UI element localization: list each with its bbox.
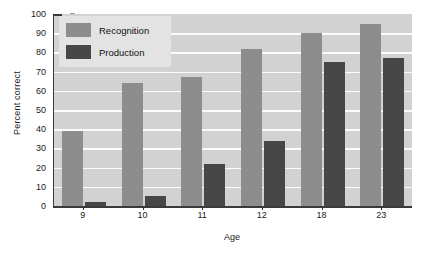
y-tick-label: 30	[22, 143, 46, 153]
y-tick-label: 100	[22, 9, 46, 19]
y-tick-label: 60	[22, 86, 46, 96]
bar-production-age-12	[264, 141, 285, 206]
bar-production-age-10	[145, 196, 166, 206]
y-tick-label: 70	[22, 67, 46, 77]
bar-chart-figure: Percent correct 0102030405060708090100 9…	[0, 0, 421, 255]
y-tick-label: 50	[22, 105, 46, 115]
chart-legend: Recognition Production	[59, 16, 171, 67]
y-tick-label: 20	[22, 163, 46, 173]
x-tick-label: 10	[123, 210, 163, 220]
bar-group	[181, 14, 225, 206]
bar-recognition-age-12	[241, 49, 262, 206]
bar-production-age-11	[204, 164, 225, 206]
legend-item-recognition: Recognition	[59, 19, 171, 41]
bar-recognition-age-11	[181, 77, 202, 206]
y-axis-tick-labels: 0102030405060708090100	[22, 14, 46, 206]
bar-group	[301, 14, 345, 206]
x-tick-mark	[262, 206, 263, 210]
legend-label-production: Production	[99, 47, 144, 58]
x-tick-label: 11	[182, 210, 222, 220]
x-tick-mark	[143, 206, 144, 210]
x-tick-label: 18	[302, 210, 342, 220]
bar-group	[241, 14, 285, 206]
bar-recognition-age-9	[62, 131, 83, 206]
bar-recognition-age-18	[301, 33, 322, 206]
y-tick-label: 0	[22, 201, 46, 211]
x-tick-label: 23	[361, 210, 401, 220]
bar-production-age-23	[383, 58, 404, 206]
x-tick-mark	[381, 206, 382, 210]
bar-group	[360, 14, 404, 206]
y-tick-label: 90	[22, 28, 46, 38]
y-tick-label: 10	[22, 182, 46, 192]
x-axis-tick-labels: 91011121823	[53, 210, 411, 226]
bar-recognition-age-10	[122, 83, 143, 206]
y-tick-label: 40	[22, 124, 46, 134]
bar-recognition-age-23	[360, 24, 381, 206]
x-tick-mark	[202, 206, 203, 210]
y-tick-label: 80	[22, 47, 46, 57]
x-axis-line	[53, 206, 412, 208]
y-axis-title: Percent correct	[12, 48, 22, 158]
x-tick-mark	[322, 206, 323, 210]
legend-label-recognition: Recognition	[99, 25, 149, 36]
bar-production-age-18	[324, 62, 345, 206]
x-tick-label: 9	[63, 210, 103, 220]
x-tick-label: 12	[242, 210, 282, 220]
legend-item-production: Production	[59, 41, 171, 63]
x-tick-mark	[83, 206, 84, 210]
recognition-swatch-icon	[66, 23, 91, 37]
production-swatch-icon	[66, 45, 91, 59]
x-axis-title: Age	[53, 232, 411, 242]
